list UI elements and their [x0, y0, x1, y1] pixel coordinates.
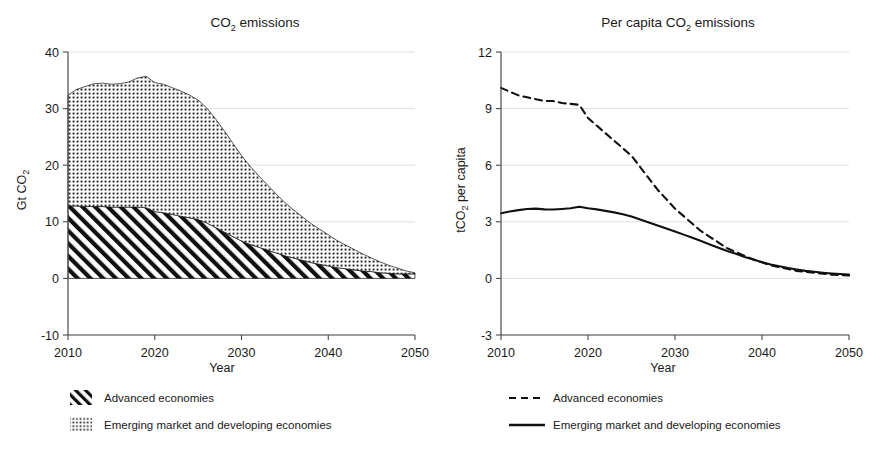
legend-label-advanced-right: Advanced economies — [553, 392, 663, 404]
legend-label-emerging-left: Emerging market and developing economies — [104, 419, 332, 431]
x-axis-label-right: Year — [650, 361, 675, 375]
x-axis-label-left: Year — [209, 361, 234, 375]
y-axis-label-left: Gt CO2 — [15, 170, 31, 210]
plot-areas-left — [68, 76, 415, 278]
y-tick-label: 10 — [45, 215, 59, 229]
legend-item-emerging-economies-right[interactable]: Emerging market and developing economies — [509, 419, 781, 431]
y-tick-label: 12 — [478, 46, 492, 60]
y-tick-label: 9 — [485, 102, 492, 116]
x-tick-label: 2010 — [54, 346, 82, 360]
x-tick-label: 2020 — [574, 346, 602, 360]
x-tick-label: 2040 — [314, 346, 342, 360]
legend-label-emerging-right: Emerging market and developing economies — [553, 419, 781, 431]
y-tick-labels-right: -3036912 — [478, 46, 492, 343]
axes-right — [496, 52, 849, 340]
y-tick-label: 40 — [45, 46, 59, 60]
legend-item-advanced-economies-right[interactable]: Advanced economies — [509, 392, 663, 404]
x-tick-label: 2050 — [835, 346, 863, 360]
y-tick-label: 3 — [485, 215, 492, 229]
x-tick-label: 2010 — [487, 346, 515, 360]
x-tick-label: 2040 — [748, 346, 776, 360]
legend-right: Advanced economies Emerging market and d… — [509, 392, 781, 431]
y-tick-label: 30 — [45, 102, 59, 116]
x-tick-labels-right: 20102020203020402050 — [487, 346, 863, 360]
y-tick-label: 6 — [485, 159, 492, 173]
gridlines-right — [501, 52, 849, 335]
plot-lines-right — [501, 88, 849, 276]
hatch-diagonal-swatch — [70, 390, 92, 405]
figure-root: CO2 emissions -10010203040 2010202020302… — [0, 0, 883, 461]
chart-title-right: Per capita CO2 emissions — [601, 15, 755, 33]
legend-label-advanced-left: Advanced economies — [104, 392, 214, 404]
y-axis-label-right: tCO2 per capita — [454, 147, 470, 233]
legend-item-emerging-economies-left[interactable]: Emerging market and developing economies — [70, 417, 332, 432]
co2-emissions-svg: CO2 emissions -10010203040 2010202020302… — [0, 0, 442, 461]
y-tick-label: -10 — [41, 329, 59, 343]
x-tick-label: 2020 — [141, 346, 169, 360]
per-capita-co2-emissions-svg: Per capita CO2 emissions -3036912 201020… — [441, 0, 883, 461]
chart-panel-co2-emissions: CO2 emissions -10010203040 2010202020302… — [0, 0, 442, 461]
y-tick-label: 0 — [485, 272, 492, 286]
y-tick-label: -3 — [481, 329, 492, 343]
legend-left: Advanced economies Emerging market and d… — [70, 390, 332, 432]
dotted-swatch — [70, 417, 92, 432]
x-tick-labels-left: 20102020203020402050 — [54, 346, 429, 360]
legend-item-advanced-economies-left[interactable]: Advanced economies — [70, 390, 214, 405]
x-tick-label: 2050 — [401, 346, 429, 360]
x-tick-label: 2030 — [661, 346, 689, 360]
line-series-emerging-economies — [501, 207, 849, 275]
chart-title-left: CO2 emissions — [210, 15, 299, 33]
y-tick-label: 20 — [45, 159, 59, 173]
chart-panel-per-capita-co2-emissions: Per capita CO2 emissions -3036912 201020… — [441, 0, 883, 461]
x-tick-label: 2030 — [228, 346, 256, 360]
line-series-advanced-economies — [501, 88, 849, 276]
y-tick-labels-left: -10010203040 — [41, 46, 59, 343]
y-tick-label: 0 — [52, 272, 59, 286]
